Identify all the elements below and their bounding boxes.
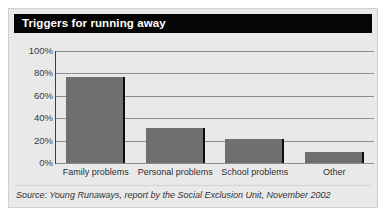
y-axis-tick-label: 100% <box>13 46 53 56</box>
y-axis-tick-label: 80% <box>13 68 53 78</box>
y-axis-tick-label: 40% <box>13 113 53 123</box>
chart-figure: Triggers for running away 0%20%40%60%80%… <box>8 8 378 208</box>
gridline <box>56 73 374 74</box>
page-title: Triggers for running away <box>22 17 166 29</box>
y-axis-tick-label: 0% <box>13 158 53 168</box>
y-axis-tick-labels: 0%20%40%60%80%100% <box>9 51 53 164</box>
y-axis-tick-label: 60% <box>13 91 53 101</box>
bar <box>146 128 205 163</box>
source-divider <box>15 185 371 186</box>
x-axis-tick-label: Other <box>295 167 375 177</box>
gridline <box>56 51 374 52</box>
source-note: Source: Young Runaways, report by the So… <box>16 190 331 200</box>
y-axis-tick-label: 20% <box>13 136 53 146</box>
plot-area <box>56 51 374 163</box>
gridline <box>56 163 374 164</box>
bar <box>305 152 364 163</box>
x-axis-tick-label: School problems <box>215 167 295 177</box>
chart-title-bar: Triggers for running away <box>14 14 372 33</box>
bar <box>66 77 125 163</box>
x-axis-tick-label: Personal problems <box>136 167 216 177</box>
x-axis-tick-label: Family problems <box>56 167 136 177</box>
bar <box>225 139 284 163</box>
